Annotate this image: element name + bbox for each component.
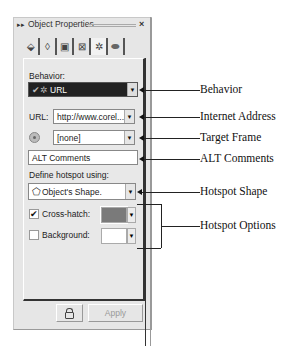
behavior-value: URL (50, 85, 67, 95)
tab-shape[interactable]: ⬬ (108, 38, 125, 55)
title-grip-rule (88, 24, 136, 27)
bracket-top (137, 204, 161, 205)
fill-bucket-icon: ⬙ (27, 41, 35, 52)
callout-alt-comments: ALT Comments (200, 152, 274, 164)
bracket-bottom (137, 248, 161, 249)
alt-comments-input[interactable]: ALT Comments (28, 150, 138, 165)
tab-internet[interactable]: ✲ (91, 38, 108, 55)
background-color-dropdown[interactable]: ▼ (127, 228, 136, 244)
tab-fill[interactable]: ⬙ (23, 38, 40, 55)
panel-title-bar[interactable]: ▸▸Object Properties (17, 19, 94, 31)
chevron-down-icon: ▼ (129, 212, 135, 218)
callout-hotspot-shape: Hotspot Shape (200, 185, 267, 197)
url-label: URL: (29, 112, 48, 122)
callout-line (142, 192, 200, 193)
chevron-down-icon: ▼ (129, 233, 135, 239)
callout-target-frame: Target Frame (200, 131, 261, 143)
chevron-down-icon[interactable]: ▼ (125, 184, 135, 199)
target-frame-value: [none] (57, 133, 81, 143)
callout-line (144, 138, 200, 139)
ellipse-shape-icon: ⬬ (111, 41, 120, 53)
tab-transform[interactable]: ⊠ (74, 38, 91, 55)
frame-icon: ▣ (60, 41, 69, 52)
panel-title: Object Properties (28, 19, 94, 29)
chevron-down-icon[interactable]: ▼ (124, 131, 134, 144)
guide-line (150, 17, 151, 346)
callout-line (161, 226, 200, 227)
crosshatch-checkbox[interactable]: ✔ (29, 209, 39, 219)
behavior-label: Behavior: (29, 71, 65, 81)
transform-icon: ⊠ (78, 41, 86, 52)
background-checkbox[interactable] (29, 230, 39, 240)
url-value: http://www.corel... (57, 112, 124, 122)
url-behavior-icon: ✔✲ (32, 85, 48, 95)
callout-line (144, 117, 200, 118)
hotspot-shape-dropdown[interactable]: ⬠ Object's Shape. ▼ (28, 183, 136, 200)
behavior-dropdown[interactable]: ✔✲ URL ▼ (28, 82, 138, 97)
property-tabs: ⬙ ◊ ▣ ⊠ ✲ ⬬ (23, 38, 125, 56)
alt-comments-value: ALT Comments (32, 153, 90, 163)
guide-line (145, 58, 146, 346)
pentagon-shape-icon: ⬠ (32, 186, 41, 197)
lock-button[interactable] (56, 304, 83, 322)
url-input[interactable]: http://www.corel... ▼ (53, 109, 135, 124)
internet-link-icon: ✲ (95, 41, 103, 52)
chevron-down-icon[interactable]: ▼ (124, 110, 134, 123)
background-color-swatch[interactable] (101, 228, 127, 244)
background-label: Background: (42, 230, 90, 240)
hotspot-shape-value: Object's Shape. (42, 187, 102, 197)
crosshatch-color-swatch[interactable] (101, 207, 127, 223)
apply-button[interactable]: Apply (88, 304, 143, 322)
close-icon[interactable]: × (139, 19, 144, 29)
pen-nib-icon: ◊ (45, 41, 50, 52)
crosshatch-color-dropdown[interactable]: ▼ (127, 207, 136, 223)
callout-line (144, 90, 200, 91)
lock-icon (65, 312, 74, 319)
target-frame-icon (29, 132, 40, 143)
tab-outline[interactable]: ◊ (40, 38, 57, 55)
callout-internet-address: Internet Address (200, 110, 276, 122)
double-chevron-right-icon[interactable]: ▸▸ (17, 21, 25, 28)
target-frame-dropdown[interactable]: [none] ▼ (53, 130, 135, 145)
callout-line (144, 159, 200, 160)
callout-hotspot-options: Hotspot Options (200, 219, 276, 231)
define-hotspot-label: Define hotspot using: (29, 170, 109, 180)
chevron-down-icon[interactable]: ▼ (127, 83, 137, 96)
tab-frame[interactable]: ▣ (57, 38, 74, 55)
crosshatch-label: Cross-hatch: (42, 209, 90, 219)
callout-behavior: Behavior (200, 83, 242, 95)
